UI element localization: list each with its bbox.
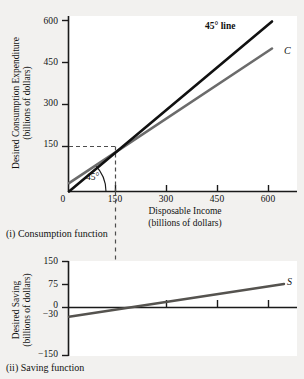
panel-i-plot-background [69, 16, 297, 192]
panel-i-angle-label: 45° [86, 172, 99, 182]
panel-ii-plot-background [69, 261, 297, 356]
panel-consumption-function: Desired Consumption Expenditure (billion… [0, 0, 304, 230]
panel-i-caption: (i) Consumption function [6, 228, 108, 239]
panel-i-label-c: C [284, 45, 291, 56]
panel-ii-caption: (ii) Saving function [6, 362, 84, 373]
panel-i-label-45-line: 45° line [205, 21, 235, 31]
panel-ii-label-s: S [287, 276, 292, 287]
panel-saving-function: Desired Saving (billions of dollars) 150… [0, 245, 304, 379]
panel-ii-plot-svg [0, 245, 304, 379]
figure-container: Desired Consumption Expenditure (billion… [0, 0, 304, 379]
panel-i-plot-svg [0, 0, 304, 230]
